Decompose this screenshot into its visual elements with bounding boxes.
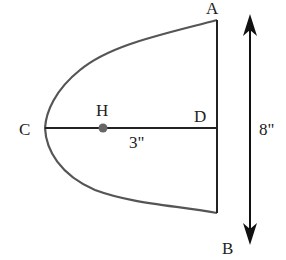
parabolic-segment-diagram: A B C D H 3" 8" bbox=[0, 0, 286, 260]
label-h: H bbox=[96, 101, 108, 120]
label-b: B bbox=[222, 239, 233, 258]
dimension-cd-label: 3" bbox=[129, 133, 144, 152]
label-a: A bbox=[206, 0, 219, 18]
label-c: C bbox=[19, 120, 30, 139]
parabolic-curve bbox=[45, 20, 217, 213]
dimension-ab-label: 8" bbox=[259, 120, 274, 139]
point-h-dot bbox=[99, 124, 108, 133]
label-d: D bbox=[194, 107, 206, 126]
